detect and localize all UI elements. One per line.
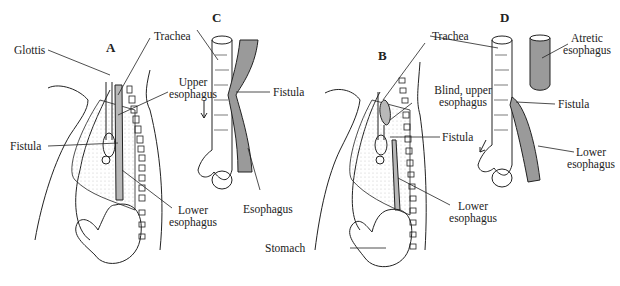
panel-label-b: B [378,48,387,64]
label-glottis: Glottis [14,44,45,56]
label-atretic-line2: esophagus [557,44,617,56]
label-lower-esophagus-b-line1: Lower [448,200,498,212]
figure-b-body [315,62,426,267]
label-fistula-d: Fistula [558,98,589,110]
label-lower-esophagus-d-line1: Lower [566,146,616,158]
panel-label-c: C [212,10,221,26]
figure-a-body [35,70,162,263]
panel-label-d: D [500,10,509,26]
label-trachea-a: Trachea [154,30,191,42]
label-lower-esophagus-a-line2: esophagus [163,216,223,228]
figure-c-organs [198,36,258,189]
panel-label-a: A [106,40,115,56]
label-lower-esophagus-d-line2: esophagus [561,158,620,170]
label-esophagus-c: Esophagus [243,203,293,215]
label-fistula-c: Fistula [273,86,304,98]
label-blind-upper-line2: esophagus [428,96,498,108]
label-trachea-b: Trachea [432,30,469,42]
label-upper-esophagus-line1: Upper [168,76,218,88]
label-upper-esophagus-line2: esophagus [163,88,223,100]
figure-d-organs [478,35,550,187]
label-fistula-b: Fistula [442,131,473,143]
label-stomach: Stomach [265,242,305,254]
diagram-drawing [0,0,620,286]
label-atretic-line1: Atretic [562,32,612,44]
label-blind-upper-line1: Blind, upper [428,84,498,96]
label-lower-esophagus-a-line1: Lower [168,204,218,216]
label-fistula-a: Fistula [10,140,41,152]
label-lower-esophagus-b-line2: esophagus [443,212,503,224]
